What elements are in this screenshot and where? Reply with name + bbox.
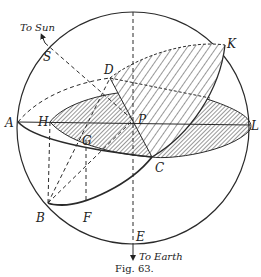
point-label-d: D [103,63,114,77]
celestial-sphere-diagram: To Sun S D K A H P L G C B F E To Earth … [0,0,261,277]
point-label-f: F [82,211,92,225]
great-circle-arc-cb [48,157,152,205]
to-sun-label: To Sun [20,22,55,33]
to-sun-arrow [42,36,45,43]
point-label-g: G [82,134,92,148]
point-label-k: K [226,37,237,51]
dashed-h-b [48,122,50,203]
to-earth-label: To Earth [139,251,183,262]
point-label-s: S [43,50,51,64]
point-label-e: E [135,230,145,244]
point-label-h: H [37,115,49,129]
figure-caption: Fig. 63. [115,263,154,274]
point-label-a: A [4,116,14,130]
point-label-p: P [137,113,147,127]
point-label-b: B [35,211,45,225]
point-label-c: C [155,161,164,175]
point-label-l: L [250,119,259,133]
